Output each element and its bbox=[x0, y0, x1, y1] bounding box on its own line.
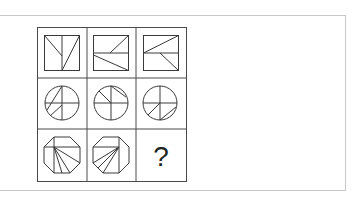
cell-3-square-figure bbox=[144, 36, 179, 71]
cell-8-octagon-figure bbox=[93, 137, 129, 173]
cell-6-circle-figure bbox=[143, 86, 177, 120]
question-mark: ? bbox=[153, 141, 169, 172]
puzzle-svg: ? bbox=[37, 27, 187, 182]
puzzle-grid: ? bbox=[37, 27, 187, 182]
cell-1-square-figure bbox=[45, 36, 80, 71]
cell-4-circle-figure bbox=[45, 86, 79, 120]
cell-2-square-figure bbox=[94, 36, 129, 71]
cell-5-circle-figure bbox=[94, 86, 128, 120]
cell-7-octagon-figure bbox=[44, 137, 80, 173]
